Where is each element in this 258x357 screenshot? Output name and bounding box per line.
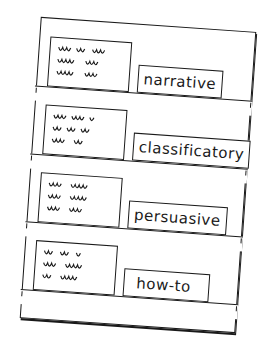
text-sample-card xyxy=(42,104,127,160)
pocket-chart: narrative classificatory persuasive how-… xyxy=(20,17,257,333)
text-sample-card xyxy=(37,172,122,228)
pocket-row-how-to: how-to xyxy=(22,239,240,320)
text-sample-card xyxy=(47,37,132,93)
pocket-row-narrative: narrative xyxy=(36,36,254,117)
pocket-row-classificatory: classificatory xyxy=(31,104,249,185)
text-sample-card xyxy=(33,240,118,296)
pocket-row-persuasive: persuasive xyxy=(26,172,244,253)
